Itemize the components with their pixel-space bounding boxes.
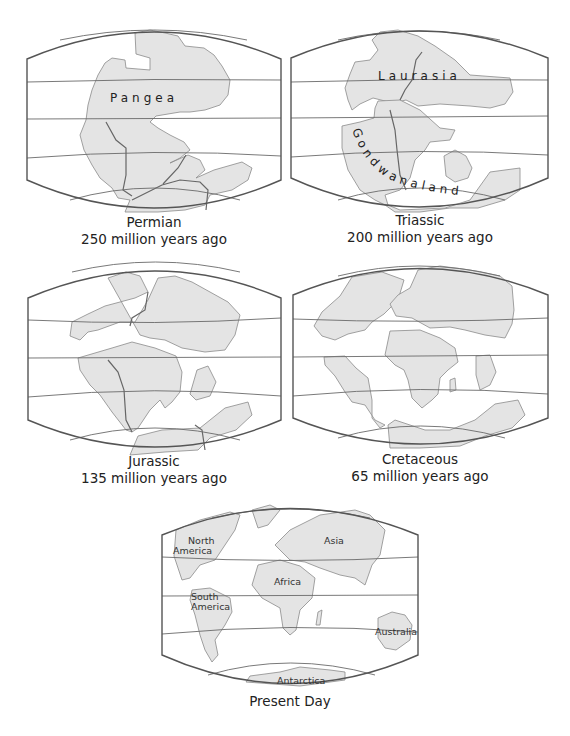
label-north-america-2: America (173, 545, 212, 556)
map-permian: Pangea (27, 30, 281, 212)
caption-jurassic: Jurassic 135 million years ago (34, 453, 274, 487)
caption-triassic: Triassic 200 million years ago (300, 212, 540, 246)
age-label: 250 million years ago (34, 231, 274, 248)
landmass-eurasia (390, 266, 514, 338)
landmass-fragment (444, 150, 472, 182)
continental-drift-figure: Pangea Laurasia Gondwanaland (0, 0, 570, 736)
caption-present-day: Present Day (170, 693, 410, 710)
map-jurassic (28, 262, 281, 455)
era-label: Present Day (170, 693, 410, 710)
label-asia: Asia (324, 535, 344, 546)
landmass-south (78, 342, 182, 432)
era-label: Permian (34, 214, 274, 231)
landmass-pangea (80, 30, 252, 212)
label-antarctica: Antarctica (277, 675, 325, 686)
landmass-fragment (190, 366, 216, 400)
label-south-america-2: America (191, 601, 230, 612)
landmass-africa (385, 330, 458, 408)
era-label: Triassic (300, 212, 540, 229)
caption-permian: Permian 250 million years ago (34, 214, 274, 248)
map-cretaceous (293, 266, 548, 448)
age-label: 200 million years ago (300, 229, 540, 246)
caption-cretaceous: Cretaceous 65 million years ago (300, 451, 540, 485)
label-australia: Australia (375, 626, 417, 637)
map-present-day: North America South America Africa Asia … (162, 505, 418, 686)
label-pangea: Pangea (110, 91, 178, 105)
age-label: 65 million years ago (300, 468, 540, 485)
landmass-india (476, 355, 496, 390)
age-label: 135 million years ago (34, 470, 274, 487)
landmass-australia-antarctica (388, 400, 525, 448)
landmass-south-america (324, 356, 385, 428)
landmass-africa (252, 560, 315, 635)
landmass-madagascar (316, 610, 322, 625)
equator-line (28, 357, 281, 358)
label-laurasia: Laurasia (378, 69, 461, 83)
landmass-north (70, 272, 240, 352)
map-triassic: Laurasia Gondwanaland (291, 30, 548, 212)
era-label: Cretaceous (300, 451, 540, 468)
label-africa: Africa (274, 576, 301, 587)
equator-line (27, 118, 281, 119)
era-label: Jurassic (34, 453, 274, 470)
